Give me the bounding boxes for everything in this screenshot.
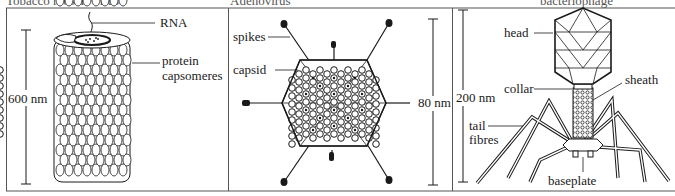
virus-comparison-diagram: 600 nm RNA — [0, 0, 675, 196]
label-head: head — [504, 25, 529, 40]
label-spikes: spikes — [233, 29, 266, 44]
rna-strand-icon — [89, 12, 93, 34]
sheath-icon — [573, 88, 593, 138]
label-fibres: fibres — [469, 132, 499, 147]
bacteriophage-panel: 200 nm — [456, 8, 669, 188]
label-sheath: sheath — [625, 72, 659, 87]
tobacco-mosaic-virus-panel: 600 nm RNA — [8, 0, 223, 184]
label-tail: tail — [469, 118, 486, 133]
label-200nm: 200 nm — [456, 90, 495, 105]
head-icon — [555, 8, 611, 84]
label-baseplate: baseplate — [548, 173, 597, 188]
scale-bar-600nm — [21, 30, 31, 184]
label-capsid: capsid — [233, 62, 267, 77]
baseplate-icon — [563, 139, 603, 157]
label-capsomeres: capsomeres — [162, 68, 223, 83]
label-80nm: 80 nm — [418, 95, 451, 110]
label-rna: RNA — [160, 15, 188, 30]
label-600nm: 600 nm — [8, 91, 47, 106]
label-collar: collar — [504, 81, 534, 96]
label-protein: protein — [162, 53, 199, 68]
